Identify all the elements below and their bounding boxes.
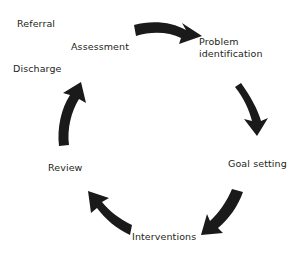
label-problem-identification: Problem identification xyxy=(199,36,263,59)
label-assessment: Assessment xyxy=(71,41,129,53)
arrow-left xyxy=(58,82,86,146)
label-referral: Referral xyxy=(17,18,55,30)
label-problem-identification-line1: Problem xyxy=(199,36,263,48)
arrow-top xyxy=(134,22,202,44)
arrow-right xyxy=(235,83,268,136)
label-problem-identification-line2: identification xyxy=(199,48,263,60)
label-goal-setting: Goal setting xyxy=(228,158,287,170)
label-review: Review xyxy=(48,162,83,174)
label-interventions: Interventions xyxy=(132,231,196,243)
cycle-diagram: Referral Assessment Discharge Problem id… xyxy=(0,0,302,257)
arrow-bottom-left xyxy=(88,191,132,235)
label-discharge: Discharge xyxy=(13,63,61,75)
arrow-bottom-right xyxy=(201,189,243,235)
